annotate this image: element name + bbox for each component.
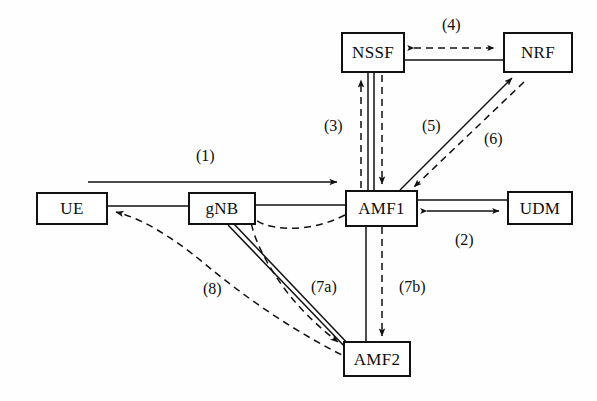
- node-nssf-label: NSSF: [352, 44, 394, 61]
- edge-2-amf1-udm: [418, 200, 507, 211]
- node-ue[interactable]: UE: [36, 192, 108, 225]
- edge-label-3: (3): [324, 118, 343, 134]
- node-amf2-label: AMF2: [354, 351, 401, 368]
- edge-label-5: (5): [422, 118, 441, 134]
- edge-4-nssf-nrf: [405, 48, 503, 60]
- edge-label-6: (6): [484, 131, 503, 147]
- edge-label-2: (2): [455, 232, 474, 248]
- edge-label-7a: (7a): [311, 279, 337, 295]
- edge-7a-amf1-to-amf2-via-gnb: [250, 212, 345, 342]
- edge-6-nrf-to-amf1: [414, 82, 524, 187]
- node-amf1-label: AMF1: [358, 200, 405, 217]
- node-amf1[interactable]: AMF1: [345, 190, 418, 227]
- edge-label-8: (8): [203, 281, 222, 297]
- node-udm[interactable]: UDM: [507, 191, 573, 225]
- node-nssf[interactable]: NSSF: [341, 32, 405, 73]
- node-gnb[interactable]: gNB: [188, 192, 256, 225]
- node-nrf[interactable]: NRF: [503, 32, 573, 73]
- node-amf2[interactable]: AMF2: [343, 341, 411, 377]
- edge-label-4: (4): [442, 17, 461, 33]
- node-gnb-label: gNB: [205, 200, 238, 217]
- edge-label-1: (1): [196, 148, 215, 164]
- node-ue-label: UE: [60, 200, 83, 217]
- network-diagram: NSSF NRF UE gNB AMF1 UDM AMF2 (1) (2) (3…: [0, 0, 597, 401]
- edge-label-7b: (7b): [399, 279, 426, 295]
- node-nrf-label: NRF: [521, 44, 555, 61]
- edge-nssf-amf1-rails: [368, 73, 374, 190]
- node-udm-label: UDM: [520, 200, 561, 217]
